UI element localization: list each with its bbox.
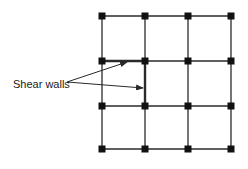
column-node xyxy=(142,146,149,153)
frame-lines xyxy=(102,16,231,149)
arrow xyxy=(67,62,127,82)
column-node xyxy=(185,146,192,153)
column-node xyxy=(99,146,106,153)
column-node xyxy=(99,103,106,110)
column-node xyxy=(185,13,192,20)
shear-walls-label: Shear walls xyxy=(13,78,70,90)
annotation-arrows xyxy=(67,62,143,88)
column-node xyxy=(228,103,235,110)
column-node xyxy=(228,13,235,20)
column-node xyxy=(185,103,192,110)
column-node xyxy=(99,13,106,20)
column-node xyxy=(142,13,149,20)
column-node xyxy=(185,58,192,65)
column-node xyxy=(228,58,235,65)
column-node xyxy=(228,146,235,153)
column-node xyxy=(142,103,149,110)
arrow xyxy=(67,82,143,88)
column-node xyxy=(99,58,106,65)
column-node xyxy=(142,58,149,65)
column-nodes xyxy=(99,13,235,153)
